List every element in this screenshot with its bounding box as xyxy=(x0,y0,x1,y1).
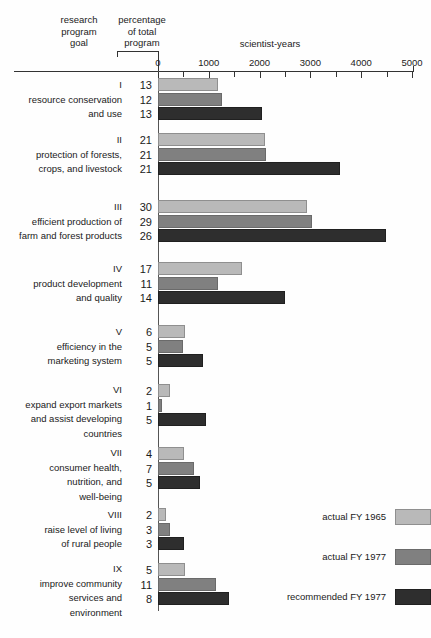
group-name-line-2: environment xyxy=(0,606,122,621)
bar-i-recommended-fy-1977 xyxy=(158,107,262,120)
x-tick-4000 xyxy=(361,72,362,78)
group-name-line-0: raise level of living xyxy=(0,523,122,538)
x-axis-line xyxy=(14,71,414,72)
group-name-line-2: countries xyxy=(0,427,122,442)
bar-v-actual-fy-1965 xyxy=(158,325,185,338)
bar-v-recommended-fy-1977 xyxy=(158,354,203,367)
legend-swatch-0 xyxy=(395,509,431,525)
group-roman-numeral: IX xyxy=(0,562,122,577)
percentage-value-2: 5 xyxy=(122,476,152,491)
percentage-value-2: 5 xyxy=(122,354,152,369)
bar-ii-actual-fy-1977 xyxy=(158,148,266,161)
legend-label-2: recommended FY 1977 xyxy=(287,591,386,602)
percentage-value-2: 14 xyxy=(122,291,152,306)
bar-viii-actual-fy-1965 xyxy=(158,508,166,521)
bar-vi-actual-fy-1977 xyxy=(158,399,162,412)
group-label-ix: IXimprove communityservices andenvironme… xyxy=(0,562,122,620)
percentage-value-2: 26 xyxy=(122,229,152,244)
percentage-column-ix: 5118 xyxy=(122,563,152,607)
bar-viii-recommended-fy-1977 xyxy=(158,537,184,550)
bar-iii-recommended-fy-1977 xyxy=(158,229,386,242)
group-name-line-0: efficient production of xyxy=(0,215,122,230)
percentage-value-2: 5 xyxy=(122,413,152,428)
bars-vii xyxy=(158,447,200,491)
bars-v xyxy=(158,325,203,369)
group-name-line-1: nutrition, and xyxy=(0,475,122,490)
x-tick-label-5000: 5000 xyxy=(392,57,431,68)
percentage-value-0: 13 xyxy=(122,78,152,93)
bar-ix-actual-fy-1977 xyxy=(158,578,216,591)
group-name-line-1: crops, and livestock xyxy=(0,162,122,177)
x-tick-3000 xyxy=(310,72,311,78)
x-tick-2500 xyxy=(285,72,286,77)
legend-swatch-1 xyxy=(395,549,431,565)
group-name-line-1: of rural people xyxy=(0,537,122,552)
percentage-value-1: 11 xyxy=(122,578,152,593)
group-roman-numeral: III xyxy=(0,200,122,215)
percentage-column-v: 655 xyxy=(122,325,152,369)
group-name-line-1: and use xyxy=(0,107,122,122)
x-tick-label-2000: 2000 xyxy=(240,57,280,68)
group-name-line-0: protection of forests, xyxy=(0,148,122,163)
percentage-value-0: 30 xyxy=(122,200,152,215)
bar-ix-recommended-fy-1977 xyxy=(158,592,229,605)
group-roman-numeral: IV xyxy=(0,262,122,277)
group-name-line-1: and assist developing xyxy=(0,412,122,427)
group-roman-numeral: VIII xyxy=(0,508,122,523)
x-tick-5000 xyxy=(412,72,413,78)
x-tick-500 xyxy=(183,72,184,77)
bar-i-actual-fy-1977 xyxy=(158,93,222,106)
group-roman-numeral: VII xyxy=(0,446,122,461)
group-label-viii: VIIIraise level of livingof rural people xyxy=(0,508,122,552)
bar-ix-actual-fy-1965 xyxy=(158,563,185,576)
percentage-header-line-2: program xyxy=(110,37,174,49)
bars-iv xyxy=(158,262,285,306)
legend-item-0: actual FY 1965 xyxy=(255,508,431,525)
bar-iv-actual-fy-1965 xyxy=(158,262,242,275)
group-label-iv: IVproduct developmentand quality xyxy=(0,262,122,306)
legend-label-1: actual FY 1977 xyxy=(322,551,386,562)
bar-iii-actual-fy-1965 xyxy=(158,200,307,213)
percentage-value-2: 13 xyxy=(122,107,152,122)
bar-i-actual-fy-1965 xyxy=(158,78,218,91)
group-roman-numeral: II xyxy=(0,133,122,148)
legend-swatch-2 xyxy=(395,589,431,605)
bar-viii-actual-fy-1977 xyxy=(158,523,170,536)
x-tick-1500 xyxy=(234,72,235,77)
bar-ii-actual-fy-1965 xyxy=(158,133,265,146)
x-tick-label-0: 0 xyxy=(138,57,178,68)
x-tick-4500 xyxy=(387,72,388,77)
group-label-v: Vefficiency in themarketing system xyxy=(0,325,122,369)
group-name-line-1: farm and forest products xyxy=(0,229,122,244)
percentage-value-1: 7 xyxy=(122,462,152,477)
bars-iii xyxy=(158,200,386,244)
column-header-percentage-of-total-program: percentageof totalprogram xyxy=(110,14,174,49)
bar-iii-actual-fy-1977 xyxy=(158,215,312,228)
bar-iv-actual-fy-1977 xyxy=(158,277,218,290)
legend-item-2: recommended FY 1977 xyxy=(255,588,431,605)
group-label-vi: VIexpand export marketsand assist develo… xyxy=(0,383,122,441)
legend-label-0: actual FY 1965 xyxy=(322,511,386,522)
group-name-line-2: well-being xyxy=(0,490,122,505)
percentage-value-1: 12 xyxy=(122,93,152,108)
axis-title-scientist-years: scientist-years xyxy=(210,38,330,50)
percentage-value-1: 29 xyxy=(122,215,152,230)
group-name-line-0: expand export markets xyxy=(0,398,122,413)
bar-vi-recommended-fy-1977 xyxy=(158,413,206,426)
bar-vii-recommended-fy-1977 xyxy=(158,476,200,489)
group-roman-numeral: V xyxy=(0,325,122,340)
chart-canvas: researchprogramgoal percentageof totalpr… xyxy=(0,0,431,638)
group-name-line-0: efficiency in the xyxy=(0,340,122,355)
group-name-line-1: marketing system xyxy=(0,354,122,369)
bar-vii-actual-fy-1977 xyxy=(158,462,194,475)
group-name-line-0: improve community xyxy=(0,577,122,592)
bars-i xyxy=(158,78,262,122)
bars-vi xyxy=(158,384,206,428)
group-label-iii: IIIefficient production offarm and fores… xyxy=(0,200,122,244)
group-label-ii: IIprotection of forests,crops, and lives… xyxy=(0,133,122,177)
percentage-header-line-0: percentage xyxy=(110,14,174,26)
percentage-value-2: 8 xyxy=(122,592,152,607)
group-name-line-0: product development xyxy=(0,277,122,292)
bars-ix xyxy=(158,563,229,607)
percentage-value-2: 21 xyxy=(122,162,152,177)
